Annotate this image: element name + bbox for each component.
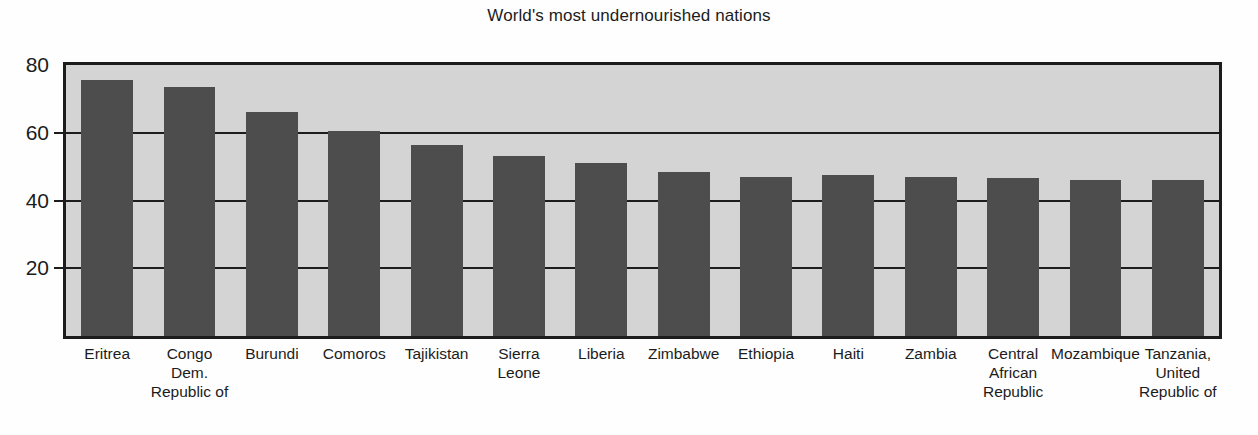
- x-tick-label-line: Tanzania,: [1131, 344, 1225, 363]
- bar: [246, 112, 298, 336]
- x-tick-label: Mozambique: [1048, 344, 1142, 363]
- y-tick-mark-20: [54, 267, 63, 269]
- x-tick-label: SierraLeone: [472, 344, 566, 382]
- y-axis: 20406080: [0, 62, 63, 342]
- bar: [164, 87, 216, 336]
- x-tick-label: Tajikistan: [389, 344, 483, 363]
- bar: [658, 172, 710, 336]
- x-tick-label-line: Zambia: [884, 344, 978, 363]
- x-tick-label: Haiti: [801, 344, 895, 363]
- x-tick-label-line: Haiti: [801, 344, 895, 363]
- bar: [1152, 180, 1204, 336]
- bar: [411, 145, 463, 336]
- bar: [493, 156, 545, 336]
- bar: [905, 177, 957, 336]
- x-tick-label: Eritrea: [60, 344, 154, 363]
- chart-title: World's most undernourished nations: [0, 6, 1258, 26]
- x-tick-label-line: Sierra: [472, 344, 566, 363]
- x-tick-label: CentralAfricanRepublic: [966, 344, 1060, 401]
- x-tick-label: Zambia: [884, 344, 978, 363]
- x-tick-label-line: Mozambique: [1048, 344, 1142, 363]
- x-tick-label-line: Central: [966, 344, 1060, 363]
- x-tick-label-line: Dem.: [142, 363, 236, 382]
- x-tick-label: Burundi: [225, 344, 319, 363]
- y-tick-label-60: 60: [26, 121, 49, 145]
- bar: [740, 177, 792, 336]
- x-tick-label-line: Republic of: [142, 382, 236, 401]
- x-tick-label-line: Ethiopia: [719, 344, 813, 363]
- y-tick-mark-60: [54, 132, 63, 134]
- y-tick-mark-40: [54, 200, 63, 202]
- y-tick-label-80: 80: [26, 53, 49, 77]
- x-tick-label-line: Comoros: [307, 344, 401, 363]
- x-axis-labels: EritreaCongoDem.Republic ofBurundiComoro…: [66, 344, 1219, 432]
- x-tick-label-line: Leone: [472, 363, 566, 382]
- x-tick-label-line: Eritrea: [60, 344, 154, 363]
- x-tick-label: Comoros: [307, 344, 401, 363]
- x-tick-label-line: Republic of: [1131, 382, 1225, 401]
- x-tick-label-line: Burundi: [225, 344, 319, 363]
- x-tick-label: Tanzania,UnitedRepublic of: [1131, 344, 1225, 401]
- x-tick-label: Liberia: [554, 344, 648, 363]
- x-tick-label-line: United: [1131, 363, 1225, 382]
- x-tick-label-line: Congo: [142, 344, 236, 363]
- bar: [575, 163, 627, 336]
- x-tick-label-line: Republic: [966, 382, 1060, 401]
- y-tick-label-40: 40: [26, 189, 49, 213]
- x-tick-label-line: African: [966, 363, 1060, 382]
- y-tick-label-20: 20: [26, 256, 49, 280]
- x-tick-label: Zimbabwe: [637, 344, 731, 363]
- chart-figure: World's most undernourished nations 2040…: [0, 0, 1258, 435]
- bar: [987, 178, 1039, 336]
- bar: [328, 131, 380, 336]
- x-tick-label: Ethiopia: [719, 344, 813, 363]
- bar: [1070, 180, 1122, 336]
- x-tick-label-line: Zimbabwe: [637, 344, 731, 363]
- x-tick-label: CongoDem.Republic of: [142, 344, 236, 401]
- bar: [81, 80, 133, 336]
- x-tick-label-line: Tajikistan: [389, 344, 483, 363]
- bars-layer: [66, 65, 1219, 336]
- bar: [822, 175, 874, 336]
- x-tick-label-line: Liberia: [554, 344, 648, 363]
